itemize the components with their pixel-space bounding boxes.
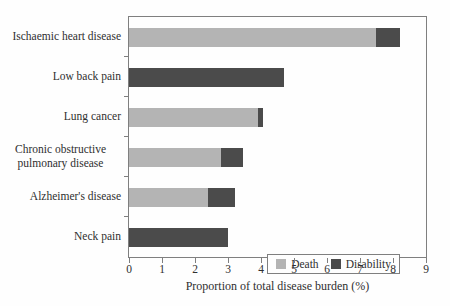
bar-segment-death — [129, 148, 221, 167]
category-label: Ischaemic heart disease — [0, 16, 121, 56]
category-label-text: Low back pain — [53, 69, 121, 83]
x-axis-tick-label: 8 — [383, 263, 403, 275]
bar-row — [129, 188, 235, 207]
y-axis-tick — [124, 96, 128, 97]
y-axis-tick — [124, 56, 128, 57]
y-axis-tick — [124, 176, 128, 177]
bar-segment-death — [129, 188, 208, 207]
bar-segment-disability — [221, 148, 242, 167]
bar-segment-disability — [129, 228, 228, 247]
y-axis-tick — [124, 136, 128, 137]
x-axis-tick-label: 4 — [251, 263, 271, 275]
bar-segment-death — [129, 28, 376, 47]
category-label: Alzheimer's disease — [0, 176, 121, 216]
category-label: Low back pain — [0, 56, 121, 96]
bar-segment-disability — [258, 108, 263, 127]
bar-segment-disability — [376, 28, 399, 47]
plot-area: Death Disability — [128, 16, 427, 258]
bar-row — [129, 28, 400, 47]
category-label: Lung cancer — [0, 96, 121, 136]
bar-series-container — [129, 17, 426, 257]
x-axis-tick-label: 3 — [218, 263, 238, 275]
x-axis-title: Proportion of total disease burden (%) — [128, 279, 427, 294]
bar-segment-disability — [129, 68, 284, 87]
category-label: Chronic obstructive pulmonary disease — [0, 136, 121, 176]
bar-row — [129, 148, 243, 167]
x-axis-tick-label: 5 — [284, 263, 304, 275]
bar-row — [129, 68, 284, 87]
bar-segment-disability — [208, 188, 234, 207]
bar-row — [129, 228, 228, 247]
x-axis-tick-label: 9 — [416, 263, 436, 275]
category-label-text: Neck pain — [74, 229, 121, 243]
x-axis-tick-label: 7 — [350, 263, 370, 275]
bar-segment-death — [129, 108, 258, 127]
category-label-text: Chronic obstructive pulmonary disease — [0, 142, 121, 171]
x-axis-tick-label: 6 — [317, 263, 337, 275]
category-label-text: Alzheimer's disease — [30, 189, 121, 203]
x-axis-tick-label: 0 — [119, 263, 139, 275]
bar-row — [129, 108, 263, 127]
disease-burden-chart: Ischaemic heart diseaseLow back painLung… — [0, 0, 450, 306]
y-axis-tick — [124, 216, 128, 217]
category-label-text: Ischaemic heart disease — [12, 29, 121, 43]
x-axis-tick-label: 2 — [185, 263, 205, 275]
x-axis-tick-label: 1 — [152, 263, 172, 275]
category-label: Neck pain — [0, 216, 121, 256]
category-label-text: Lung cancer — [64, 109, 121, 123]
